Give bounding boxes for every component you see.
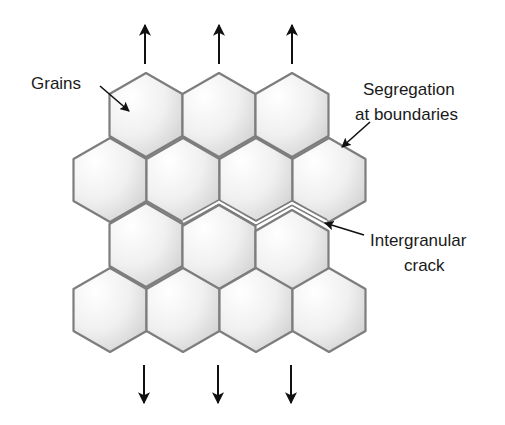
segregation-label-line1: Segregation bbox=[363, 80, 455, 99]
segregation-leader-arrow-icon bbox=[342, 122, 370, 147]
crack-leader-arrow-icon bbox=[325, 223, 364, 235]
intergranular-label-line1: Intergranular bbox=[370, 231, 466, 250]
segregation-label-line2: at boundaries bbox=[355, 105, 458, 124]
grains-group bbox=[74, 73, 366, 352]
diagram-canvas: Grains Segregation at boundaries Intergr… bbox=[0, 0, 505, 425]
grains-label: Grains bbox=[31, 74, 81, 93]
intergranular-label-line2: crack bbox=[404, 256, 445, 275]
grain-structure-diagram bbox=[0, 0, 505, 425]
